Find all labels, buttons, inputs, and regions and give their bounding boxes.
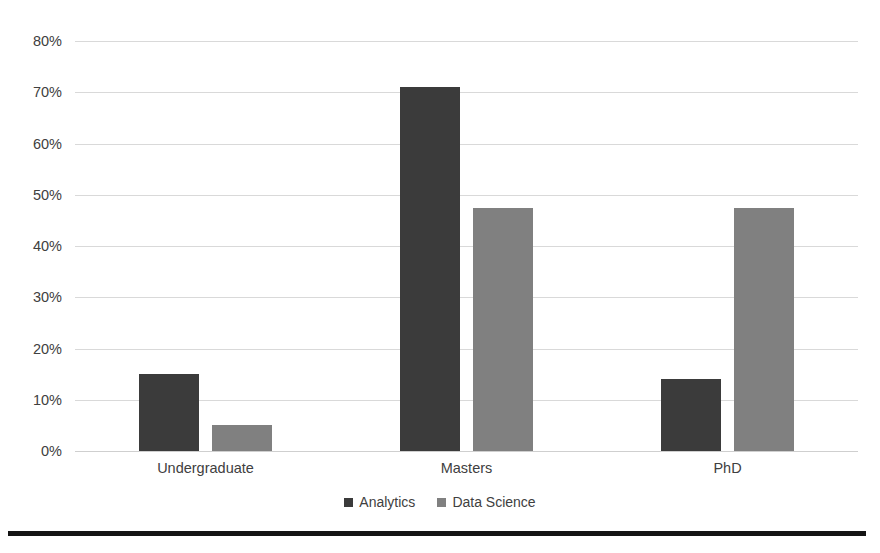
x-axis-label-undergraduate: Undergraduate xyxy=(157,456,254,480)
y-axis-tick-label: 0% xyxy=(2,444,62,459)
y-axis-tick-label: 10% xyxy=(2,393,62,408)
y-axis: 80%70%60%50%40%30%20%10%0% xyxy=(0,41,62,451)
bar-phd-analytics xyxy=(661,379,721,451)
y-axis-tick-label: 30% xyxy=(2,290,62,305)
legend-item-label: Data Science xyxy=(452,494,535,510)
y-axis-tick-label: 20% xyxy=(2,341,62,356)
gridline-70 xyxy=(75,92,858,93)
legend-swatch-icon xyxy=(437,498,446,507)
x-axis-category-labels: UndergraduateMastersPhD xyxy=(75,456,858,484)
y-axis-tick-label: 80% xyxy=(2,34,62,49)
bar-masters-data-science xyxy=(473,208,533,451)
y-axis-tick-label: 50% xyxy=(2,188,62,203)
gridline-60 xyxy=(75,144,858,145)
y-axis-tick-label: 70% xyxy=(2,85,62,100)
bar-chart: 80%70%60%50%40%30%20%10%0% Undergraduate… xyxy=(0,0,880,553)
gridline-50 xyxy=(75,195,858,196)
bar-phd-data-science xyxy=(734,208,794,451)
chart-legend: AnalyticsData Science xyxy=(0,494,880,510)
bottom-divider-rule xyxy=(8,531,866,536)
y-axis-tick-label: 60% xyxy=(2,136,62,151)
y-axis-tick-label: 40% xyxy=(2,239,62,254)
x-axis-label-masters: Masters xyxy=(441,456,493,480)
legend-swatch-icon xyxy=(344,498,353,507)
legend-item-label: Analytics xyxy=(359,494,415,510)
plot-area xyxy=(75,41,858,451)
gridline-0 xyxy=(75,451,858,452)
gridline-80 xyxy=(75,41,858,42)
bar-masters-analytics xyxy=(400,87,460,451)
legend-item-data-science[interactable]: Data Science xyxy=(437,494,535,510)
x-axis-label-phd: PhD xyxy=(713,456,741,480)
bar-undergraduate-data-science xyxy=(212,425,272,451)
legend-item-analytics[interactable]: Analytics xyxy=(344,494,415,510)
bar-undergraduate-analytics xyxy=(139,374,199,451)
